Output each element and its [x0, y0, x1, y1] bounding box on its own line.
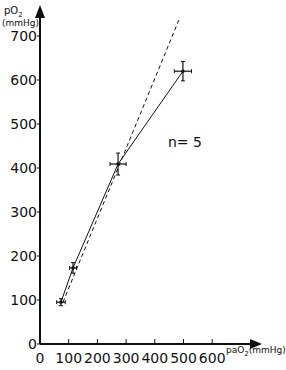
data-line — [61, 71, 183, 302]
series — [57, 17, 192, 306]
n-annotation: n= 5 — [168, 134, 202, 150]
y-axis-title: pO2 (mmHg) — [2, 5, 39, 28]
x-tick-label: 400 — [141, 350, 168, 366]
x-tick-label: 200 — [84, 350, 111, 366]
y-tick-label: 100 — [10, 292, 37, 308]
y-axis-arrow-icon — [35, 5, 45, 18]
y-tick-label: 600 — [10, 72, 37, 88]
y-tick-label: 200 — [10, 248, 37, 264]
axes — [35, 5, 262, 349]
chart: pO2 (mmHg) paO2(mmHg) 010020030040050060… — [0, 0, 286, 370]
x-tick-label: 0 — [36, 350, 45, 366]
y-tick-label: 500 — [10, 116, 37, 132]
y-tick-label: 400 — [10, 160, 37, 176]
x-axis-title: paO2(mmHg) — [226, 345, 286, 358]
x-tick-label: 100 — [55, 350, 82, 366]
y-tick-label: 300 — [10, 204, 37, 220]
x-tick-label: 500 — [170, 350, 197, 366]
y-tick-label: 0 — [28, 336, 37, 352]
x-tick-label: 600 — [199, 350, 226, 366]
y-tick-label: 700 — [10, 28, 37, 44]
x-tick-label: 300 — [113, 350, 140, 366]
ticks: 0100200300400500600010020030040050060070… — [10, 28, 225, 366]
y-axis-title-main: pO — [4, 5, 18, 16]
svg-text:pO2: pO2 — [4, 5, 23, 19]
data-point — [174, 62, 191, 81]
svg-text:(mmHg): (mmHg) — [2, 18, 39, 28]
svg-text:paO2(mmHg): paO2(mmHg) — [226, 345, 286, 358]
data-point — [70, 263, 77, 274]
reference-line — [63, 17, 180, 302]
